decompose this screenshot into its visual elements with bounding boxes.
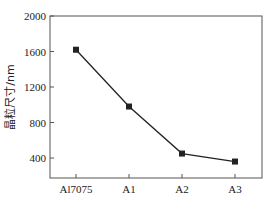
data-point-marker (126, 104, 132, 110)
x-tick-label: Al7075 (60, 183, 94, 195)
x-tick-label: A1 (122, 183, 135, 195)
y-tick-label: 400 (30, 152, 47, 164)
data-point-marker (179, 151, 185, 157)
y-axis-title: 晶粒尺寸/nm (3, 64, 17, 129)
x-tick-label: A2 (175, 183, 188, 195)
y-tick-label: 1600 (24, 46, 47, 58)
y-tick-label: 800 (30, 117, 47, 129)
x-tick-label: A3 (228, 183, 242, 195)
line-chart: 2000 1600 1200 800 400 Al7075 A1 A2 A3 晶… (0, 0, 271, 205)
plot-frame (50, 16, 262, 178)
data-point-marker (73, 47, 79, 53)
x-axis: Al7075 A1 A2 A3 (60, 174, 243, 195)
y-tick-label: 1200 (24, 81, 47, 93)
data-series (73, 47, 238, 165)
y-tick-label: 2000 (24, 10, 47, 22)
series-line (76, 50, 235, 162)
data-point-marker (232, 159, 238, 165)
